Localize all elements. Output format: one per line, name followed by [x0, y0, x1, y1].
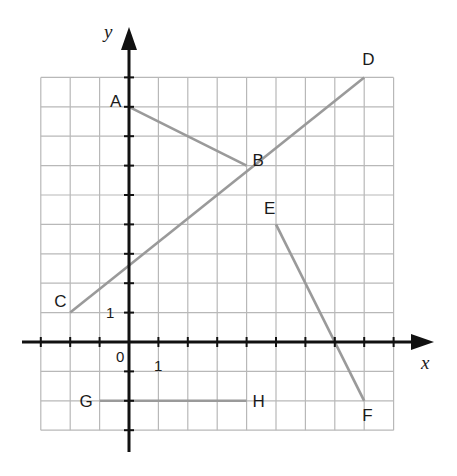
- point-label-e: E: [264, 199, 275, 218]
- point-label-b: B: [253, 151, 264, 170]
- y-axis-arrow-icon: [121, 27, 137, 50]
- origin-label: 0: [116, 348, 124, 365]
- point-label-g: G: [80, 392, 93, 411]
- x-axis-label: x: [420, 352, 430, 373]
- coordinate-diagram: x y 0 1 1 ABCDEFGH: [0, 0, 457, 476]
- point-label-f: F: [362, 406, 372, 425]
- y-axis-label: y: [102, 21, 113, 42]
- x-axis-arrow-icon: [411, 334, 434, 350]
- y-unit-label: 1: [106, 304, 114, 321]
- point-label-a: A: [110, 92, 122, 111]
- point-label-c: C: [54, 292, 66, 311]
- point-label-d: D: [362, 50, 374, 69]
- grid: [41, 77, 394, 430]
- axes: x y 0 1 1: [22, 21, 434, 452]
- x-unit-label: 1: [154, 357, 162, 374]
- point-label-h: H: [253, 392, 265, 411]
